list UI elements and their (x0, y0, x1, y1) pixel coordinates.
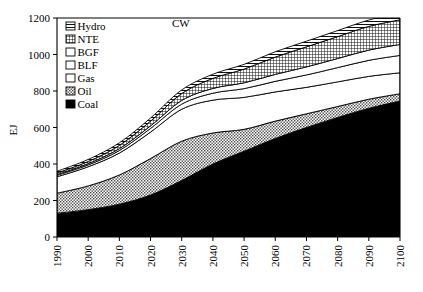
y-axis-label: EJ (7, 124, 19, 136)
legend-label: Gas (78, 72, 95, 84)
legend-label: NTE (78, 33, 100, 45)
x-tick-label: 2050 (238, 245, 250, 268)
legend-swatch-hydro (66, 22, 75, 30)
x-tick-label: 1990 (51, 245, 63, 268)
legend-label: Hydro (78, 20, 107, 32)
x-tick-label: 2060 (269, 245, 281, 268)
legend-label: Oil (78, 85, 92, 97)
y-tick-label: 400 (34, 158, 51, 170)
y-tick-label: 800 (34, 85, 51, 97)
y-tick-label: 1200 (28, 12, 51, 24)
chart-title: CW (172, 17, 190, 29)
x-tick-label: 2010 (113, 245, 125, 268)
stacked-area-chart: 020040060080010001200 199020002010202020… (0, 0, 423, 292)
legend-swatch-nte (66, 35, 75, 43)
x-tick-label: 2090 (363, 245, 375, 268)
x-tick-label: 2000 (82, 245, 94, 268)
x-tick-label: 2080 (332, 245, 344, 268)
y-tick-label: 0 (45, 231, 51, 243)
y-tick-label: 200 (34, 195, 51, 207)
y-tick-label: 600 (34, 122, 51, 134)
chart-figure: 020040060080010001200 199020002010202020… (0, 0, 423, 292)
legend-label: BGF (78, 46, 99, 58)
legend-swatch-blf (66, 61, 75, 69)
legend-swatch-gas (66, 74, 75, 82)
legend-label: Coal (78, 98, 99, 110)
x-tick-label: 2040 (207, 245, 219, 268)
legend-swatch-coal (66, 100, 75, 108)
x-tick-label: 2020 (145, 245, 157, 268)
x-tick-label: 2100 (394, 245, 406, 268)
x-tick-label: 2070 (300, 245, 312, 268)
y-tick-label: 1000 (28, 49, 51, 61)
x-tick-label: 2030 (176, 245, 188, 268)
legend-swatch-bgf (66, 48, 75, 56)
legend-label: BLF (78, 59, 98, 71)
legend-swatch-oil (66, 87, 75, 95)
